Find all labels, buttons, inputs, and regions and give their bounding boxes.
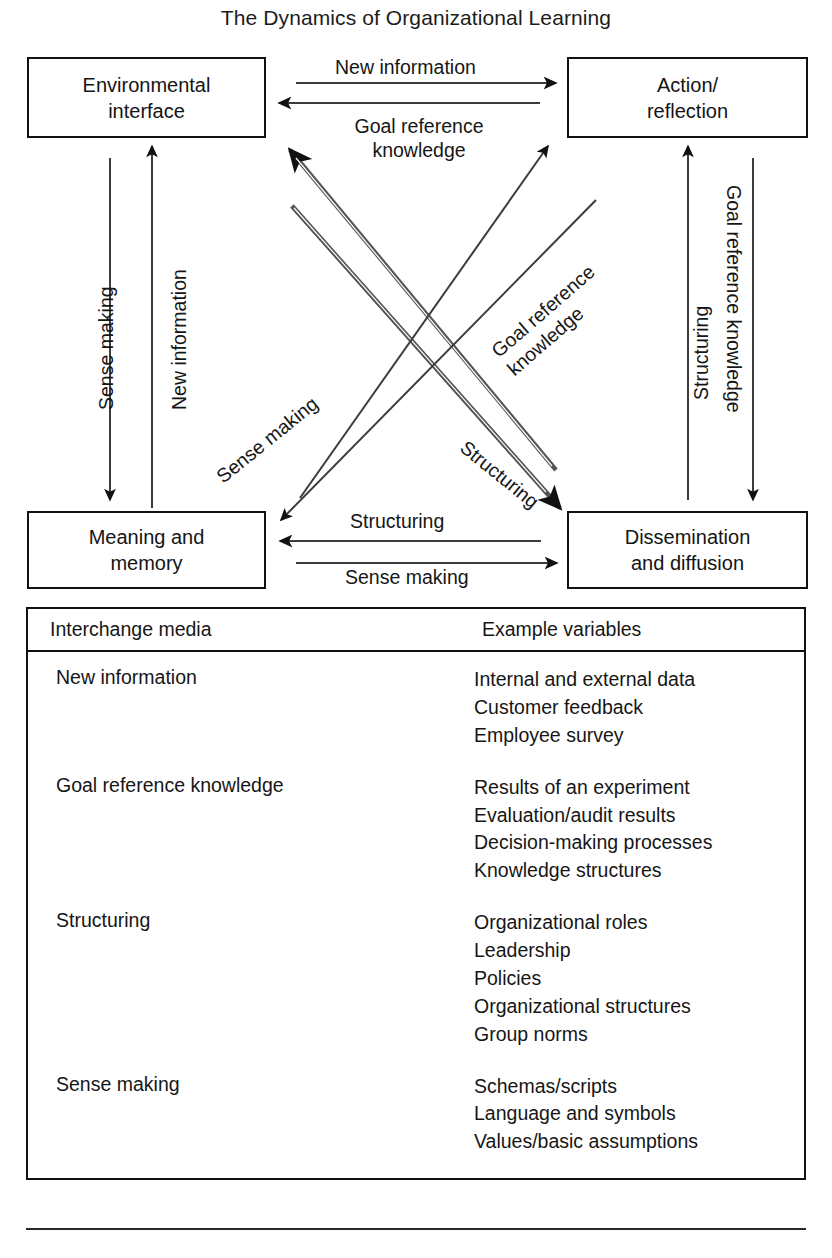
edge-label-structuring-bottom: Structuring	[350, 510, 444, 534]
node-label-line1: Environmental	[83, 72, 211, 98]
variable-item: Values/basic assumptions	[474, 1128, 804, 1156]
column-header-example-variables: Example variables	[418, 618, 804, 641]
table-body: New information Internal and external da…	[28, 652, 804, 1178]
arrow-sense-making-thin-diagonal	[281, 200, 596, 520]
node-environmental-interface[interactable]: Environmental interface	[27, 57, 266, 138]
footer-rule	[26, 1228, 806, 1230]
edge-label-sense-making-diagonal: Sense making	[212, 392, 323, 488]
edge-label-goal-reference-top: Goal reference knowledge	[334, 115, 504, 163]
variable-item: Knowledge structures	[474, 857, 804, 885]
edge-label-new-information-left: New information	[168, 269, 192, 410]
cell-interchange-media: Sense making	[28, 1073, 418, 1096]
cell-interchange-media: Goal reference knowledge	[28, 774, 418, 797]
edge-label-structuring-right: Structuring	[690, 306, 714, 400]
variable-item: Evaluation/audit results	[474, 802, 804, 830]
node-label-line1: Dissemination	[625, 524, 751, 550]
arrow-sense-making-diagonal	[290, 150, 556, 470]
node-meaning-and-memory[interactable]: Meaning and memory	[27, 511, 266, 589]
cell-example-variables: Results of an experiment Evaluation/audi…	[418, 774, 804, 886]
variable-item: Schemas/scripts	[474, 1073, 804, 1101]
edge-label-structuring-diagonal: Structuring	[456, 436, 544, 513]
column-header-interchange-media: Interchange media	[28, 618, 418, 641]
cell-example-variables: Organizational roles Leadership Policies…	[418, 909, 804, 1048]
variable-item: Organizational roles	[474, 909, 804, 937]
variable-item: Customer feedback	[474, 694, 804, 722]
edge-label-sense-making-bottom: Sense making	[345, 566, 469, 590]
node-action-reflection[interactable]: Action/ reflection	[567, 57, 808, 138]
interchange-media-table: Interchange media Example variables New …	[26, 607, 806, 1180]
edge-label-line2: knowledge	[372, 139, 465, 161]
variable-item: Policies	[474, 965, 804, 993]
variable-item: Employee survey	[474, 722, 804, 750]
variable-item: Organizational structures	[474, 993, 804, 1021]
edge-label-sense-making-left: Sense making	[95, 286, 119, 410]
table-row: Structuring Organizational roles Leaders…	[28, 909, 804, 1048]
cell-interchange-media: New information	[28, 666, 418, 689]
organizational-learning-figure: The Dynamics of Organizational Learning	[0, 0, 832, 1258]
table-row: Sense making Schemas/scripts Language an…	[28, 1073, 804, 1157]
node-label-line2: reflection	[647, 98, 728, 124]
node-label-line1: Action/	[657, 72, 718, 98]
node-label-line1: Meaning and	[89, 524, 205, 550]
variable-item: Decision-making processes	[474, 829, 804, 857]
variable-item: Group norms	[474, 1021, 804, 1049]
arrow-goal-reference-diagonal	[300, 146, 548, 498]
cell-example-variables: Schemas/scripts Language and symbols Val…	[418, 1073, 804, 1157]
table-row: Goal reference knowledge Results of an e…	[28, 774, 804, 886]
page-title: The Dynamics of Organizational Learning	[0, 6, 832, 30]
variable-item: Leadership	[474, 937, 804, 965]
table-row: New information Internal and external da…	[28, 666, 804, 750]
table-header-row: Interchange media Example variables	[28, 609, 804, 652]
node-dissemination-and-diffusion[interactable]: Dissemination and diffusion	[567, 511, 808, 589]
node-label-line2: interface	[108, 98, 185, 124]
node-label-line2: memory	[110, 550, 182, 576]
cell-interchange-media: Structuring	[28, 909, 418, 932]
edge-label-line1: Goal reference	[355, 115, 484, 137]
variable-item: Language and symbols	[474, 1100, 804, 1128]
variable-item: Results of an experiment	[474, 774, 804, 802]
cell-example-variables: Internal and external data Customer feed…	[418, 666, 804, 750]
edge-label-goal-reference-right: Goal reference knowledge	[721, 185, 745, 413]
node-label-line2: and diffusion	[631, 550, 744, 576]
edge-label-new-information-top: New information	[335, 56, 476, 80]
edge-label-goal-reference-diagonal: Goal reference knowledge	[487, 260, 615, 380]
variable-item: Internal and external data	[474, 666, 804, 694]
